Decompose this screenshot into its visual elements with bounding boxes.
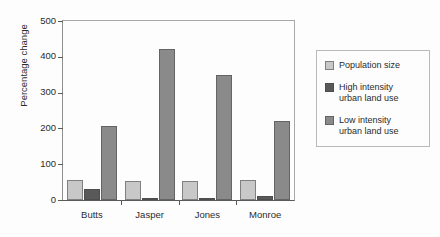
bar (240, 180, 256, 200)
bar-group: Jasper (121, 21, 179, 200)
bar-chart: Percentage change 0100200300400500 Butts… (0, 0, 440, 237)
x-axis-tick-mark (121, 200, 122, 205)
legend-item-label: Population size (339, 60, 400, 71)
bar (182, 181, 198, 200)
y-axis-tick-label: 500 (40, 15, 56, 26)
x-axis-tick-label: Butts (81, 209, 103, 220)
bar (216, 75, 232, 200)
bar (67, 180, 83, 200)
bar-group: Jones (179, 21, 237, 200)
legend-items: Population sizeHigh intensityurban land … (325, 60, 422, 137)
y-axis-tick-mark (58, 200, 63, 201)
bar (84, 189, 100, 200)
legend-swatch-icon (325, 83, 334, 92)
x-axis-tick-label: Jones (195, 209, 220, 220)
y-axis-tick-label: 0 (51, 194, 56, 205)
x-axis-tick-mark (236, 200, 237, 205)
bar-groups: ButtsJasperJonesMonroe (63, 21, 294, 200)
plot-area: 0100200300400500 ButtsJasperJonesMonroe (62, 20, 295, 201)
bar (199, 198, 215, 201)
x-axis-tick-mark (179, 200, 180, 205)
bar (274, 121, 290, 200)
bar-group: Butts (63, 21, 121, 200)
y-axis-tick-label: 300 (40, 86, 56, 97)
bar-group-bars (63, 21, 121, 200)
bar (125, 181, 141, 200)
x-axis-tick-label: Jasper (135, 209, 164, 220)
bar-group: Monroe (236, 21, 294, 200)
legend-swatch-icon (325, 61, 334, 70)
y-axis-title: Percentage change (18, 0, 29, 136)
y-axis-tick-label: 400 (40, 50, 56, 61)
x-axis-tick-label: Monroe (249, 209, 281, 220)
y-axis-tick-label: 200 (40, 122, 56, 133)
bar (257, 196, 273, 200)
bar-group-bars (179, 21, 237, 200)
bar-group-bars (121, 21, 179, 200)
legend-item[interactable]: Population size (325, 60, 422, 71)
chart-legend: Population sizeHigh intensityurban land … (316, 50, 430, 147)
legend-item[interactable]: Low intensityurban land use (325, 115, 422, 137)
y-axis-tick-label: 100 (40, 158, 56, 169)
legend-item-label: High intensityurban land use (339, 82, 399, 104)
bar-group-bars (236, 21, 294, 200)
legend-item-label: Low intensityurban land use (339, 115, 399, 137)
legend-item[interactable]: High intensityurban land use (325, 82, 422, 104)
legend-swatch-icon (325, 116, 334, 125)
bar (101, 126, 117, 200)
bar (142, 198, 158, 200)
bar (159, 49, 175, 200)
